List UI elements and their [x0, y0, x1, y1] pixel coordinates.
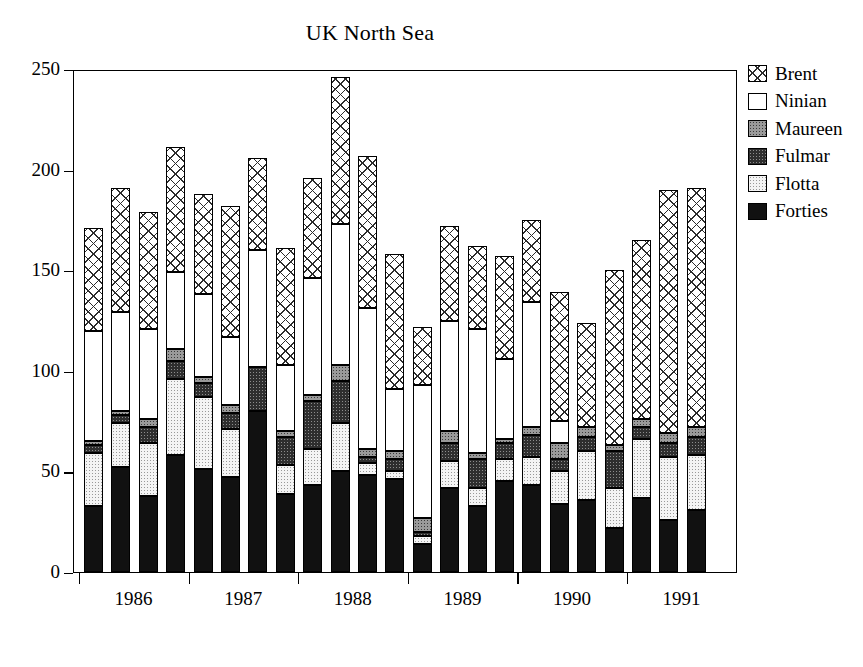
bar-segment-ninian	[358, 308, 377, 449]
bar-segment-fulmar	[139, 427, 158, 443]
y-axis-tick: 150	[0, 271, 73, 272]
bar-1991-q2	[659, 190, 678, 572]
legend-item-maureen[interactable]: Maureen	[748, 115, 863, 143]
y-tick-label: 50	[41, 461, 60, 481]
bar-segment-fulmar	[221, 413, 240, 429]
bar-segment-fulmar	[385, 459, 404, 471]
bar-segment-forties	[221, 477, 240, 572]
bar-segment-maureen	[221, 405, 240, 413]
x-tick-mark	[298, 573, 299, 584]
bar-1991-q1	[632, 240, 651, 572]
bar-segment-fulmar	[166, 361, 185, 379]
bar-segment-brent	[468, 246, 487, 328]
bar-segment-maureen	[84, 441, 103, 445]
x-tick-mark	[627, 573, 628, 584]
legend-item-brent[interactable]: Brent	[748, 60, 863, 88]
bar-segment-maureen	[303, 395, 322, 401]
bar-segment-brent	[221, 206, 240, 337]
y-tick-label: 200	[32, 160, 61, 180]
bar-segment-flotta	[440, 461, 459, 487]
y-tick-mark	[64, 472, 73, 473]
bar-1988-q1	[303, 178, 322, 572]
bar-segment-forties	[276, 494, 295, 572]
bars-layer	[74, 71, 736, 572]
bar-segment-ninian	[522, 302, 541, 427]
bar-segment-maureen	[358, 449, 377, 457]
y-axis-tick: 200	[0, 171, 73, 172]
legend-swatch-ninian	[748, 93, 767, 110]
legend-swatch-flotta	[748, 175, 767, 192]
bar-segment-forties	[194, 469, 213, 572]
x-axis-label-1988: 1988	[334, 588, 372, 610]
bar-1990-q1	[522, 220, 541, 572]
bar-segment-ninian	[495, 359, 514, 439]
bar-1989-q1	[413, 327, 432, 572]
bar-segment-brent	[84, 228, 103, 331]
legend-swatch-maureen	[748, 120, 767, 137]
bar-segment-fulmar	[605, 451, 624, 487]
bar-segment-ninian	[385, 389, 404, 451]
bar-1988-q4	[385, 254, 404, 572]
bar-segment-forties	[632, 498, 651, 572]
bar-segment-flotta	[495, 459, 514, 481]
bar-segment-brent	[303, 178, 322, 279]
legend-item-fulmar[interactable]: Fulmar	[748, 143, 863, 171]
legend-item-flotta[interactable]: Flotta	[748, 170, 863, 198]
bar-segment-brent	[358, 156, 377, 309]
bar-segment-brent	[111, 188, 130, 313]
bar-1991-q3	[687, 188, 706, 572]
bar-segment-flotta	[659, 457, 678, 519]
y-axis-tick: 0	[0, 573, 73, 574]
bar-segment-ninian	[331, 224, 350, 365]
y-tick-label: 250	[32, 59, 61, 79]
bar-segment-forties	[139, 496, 158, 572]
bar-segment-fulmar	[522, 435, 541, 457]
bar-segment-fulmar	[194, 383, 213, 397]
bar-segment-brent	[522, 220, 541, 302]
bar-segment-flotta	[358, 463, 377, 475]
legend-item-ninian[interactable]: Ninian	[748, 88, 863, 116]
bar-segment-flotta	[385, 471, 404, 479]
bar-segment-maureen	[440, 431, 459, 443]
bar-1986-q1	[84, 228, 103, 572]
y-tick-label: 0	[51, 562, 61, 582]
bar-segment-forties	[166, 455, 185, 572]
bar-segment-maureen	[550, 443, 569, 459]
x-tick-mark	[517, 573, 518, 584]
bar-1990-q4	[605, 270, 624, 572]
bar-segment-brent	[550, 292, 569, 421]
legend-label-forties: Forties	[775, 201, 828, 221]
bar-segment-flotta	[605, 488, 624, 528]
bar-segment-brent	[385, 254, 404, 389]
bar-segment-flotta	[166, 379, 185, 455]
bar-segment-ninian	[166, 272, 185, 348]
bar-segment-maureen	[139, 419, 158, 427]
bar-segment-brent	[331, 77, 350, 224]
bar-segment-fulmar	[632, 427, 651, 439]
bar-segment-fulmar	[687, 437, 706, 455]
bar-segment-maureen	[385, 451, 404, 459]
bar-segment-maureen	[632, 419, 651, 427]
bar-segment-brent	[276, 248, 295, 365]
bar-segment-fulmar	[440, 443, 459, 461]
bar-segment-flotta	[276, 465, 295, 493]
bar-segment-brent	[632, 240, 651, 419]
chart-root: UK North Sea 050100150200250 19861987198…	[0, 0, 863, 667]
bar-1988-q3	[358, 156, 377, 572]
x-axis-label-1986: 1986	[115, 588, 153, 610]
y-tick-mark	[64, 171, 73, 172]
bar-segment-maureen	[194, 377, 213, 383]
bar-segment-forties	[577, 500, 596, 572]
legend-item-forties[interactable]: Forties	[748, 198, 863, 226]
y-tick-mark	[64, 372, 73, 373]
bar-segment-ninian	[139, 329, 158, 420]
bar-1986-q2	[111, 188, 130, 572]
bar-segment-flotta	[194, 397, 213, 469]
bar-segment-forties	[358, 475, 377, 572]
bar-segment-brent	[577, 323, 596, 428]
bar-1990-q3	[577, 323, 596, 572]
bar-segment-ninian	[413, 385, 432, 518]
legend-label-brent: Brent	[775, 64, 817, 84]
bar-segment-forties	[303, 485, 322, 572]
bar-segment-flotta	[687, 455, 706, 509]
